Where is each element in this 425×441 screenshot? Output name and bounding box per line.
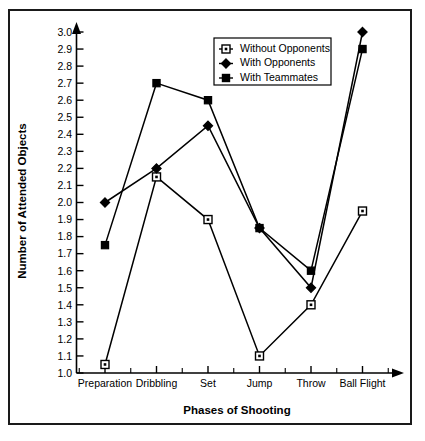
- y-axis-title: Number of Attended Objects: [16, 123, 28, 278]
- x-tick-group: [79, 366, 388, 373]
- chart-legend: Without OpponentsWith OpponentsWith Team…: [214, 38, 331, 85]
- data-point-core: [104, 363, 107, 366]
- data-point-legend: [222, 74, 229, 81]
- data-point-core: [310, 304, 313, 307]
- legend-label-2[interactable]: With Teammates: [240, 71, 318, 83]
- y-tick-label: 2.5: [57, 111, 72, 123]
- data-point-core: [258, 355, 261, 358]
- y-tick-label: 3.0: [57, 26, 72, 38]
- y-tick-label: 1.5: [57, 282, 72, 294]
- y-tick-label: 2.7: [57, 77, 72, 89]
- data-point-core: [207, 218, 210, 221]
- y-tick-label: 2.6: [57, 94, 72, 106]
- x-tick-label: Preparation: [78, 377, 132, 389]
- line-chart: 1.01.11.21.31.41.51.61.71.81.92.02.12.22…: [0, 0, 425, 441]
- y-tick-label: 2.9: [57, 43, 72, 55]
- data-point-filled-square: [204, 97, 211, 104]
- y-tick-label: 2.0: [57, 196, 72, 208]
- y-tick-label: 1.1: [57, 350, 72, 362]
- y-tick-label: 1.0: [57, 367, 72, 379]
- x-tick-label: Jump: [247, 377, 273, 389]
- y-tick-label: 1.6: [57, 265, 72, 277]
- x-tick-label-group: PreparationDribblingSetJumpThrowBall Fli…: [78, 377, 386, 389]
- x-tick-label: Set: [200, 377, 216, 389]
- data-point-filled-square: [359, 45, 366, 52]
- series-line: [105, 177, 363, 365]
- x-tick-label: Ball Flight: [339, 377, 385, 389]
- legend-label-1[interactable]: With Opponents: [240, 56, 315, 68]
- x-tick-label: Throw: [296, 377, 326, 389]
- y-tick-label: 2.1: [57, 179, 72, 191]
- data-point-core: [155, 176, 158, 179]
- data-point-filled-square: [101, 242, 108, 249]
- y-tick-group: [77, 32, 84, 373]
- y-tick-label: 2.2: [57, 162, 72, 174]
- y-tick-label: 2.3: [57, 145, 72, 157]
- y-tick-label: 1.8: [57, 230, 72, 242]
- data-point-filled-square: [307, 267, 314, 274]
- y-tick-label: 1.4: [57, 299, 72, 311]
- data-point-core: [361, 210, 364, 213]
- y-tick-label: 2.8: [57, 60, 72, 72]
- y-axis: [72, 22, 81, 373]
- figure-container: 1.01.11.21.31.41.51.61.71.81.92.02.12.22…: [0, 0, 425, 441]
- y-tick-label-group: 1.01.11.21.31.41.51.61.71.81.92.02.12.22…: [57, 26, 72, 379]
- x-axis-arrow-icon: [392, 369, 404, 378]
- data-point-filled-diamond: [358, 27, 367, 36]
- data-point-filled-square: [153, 80, 160, 87]
- y-tick-label: 1.9: [57, 213, 72, 225]
- data-point-filled-square: [256, 224, 263, 231]
- legend-label-0[interactable]: Without Opponents: [240, 42, 330, 54]
- x-tick-label: Dribbling: [136, 377, 178, 389]
- y-tick-label: 2.4: [57, 128, 72, 140]
- y-tick-label: 1.3: [57, 316, 72, 328]
- x-axis-title: Phases of Shooting: [183, 404, 290, 416]
- y-tick-label: 1.2: [57, 333, 72, 345]
- y-tick-label: 1.7: [57, 247, 72, 259]
- data-point-filled-diamond: [100, 198, 109, 207]
- data-point-core: [225, 48, 228, 51]
